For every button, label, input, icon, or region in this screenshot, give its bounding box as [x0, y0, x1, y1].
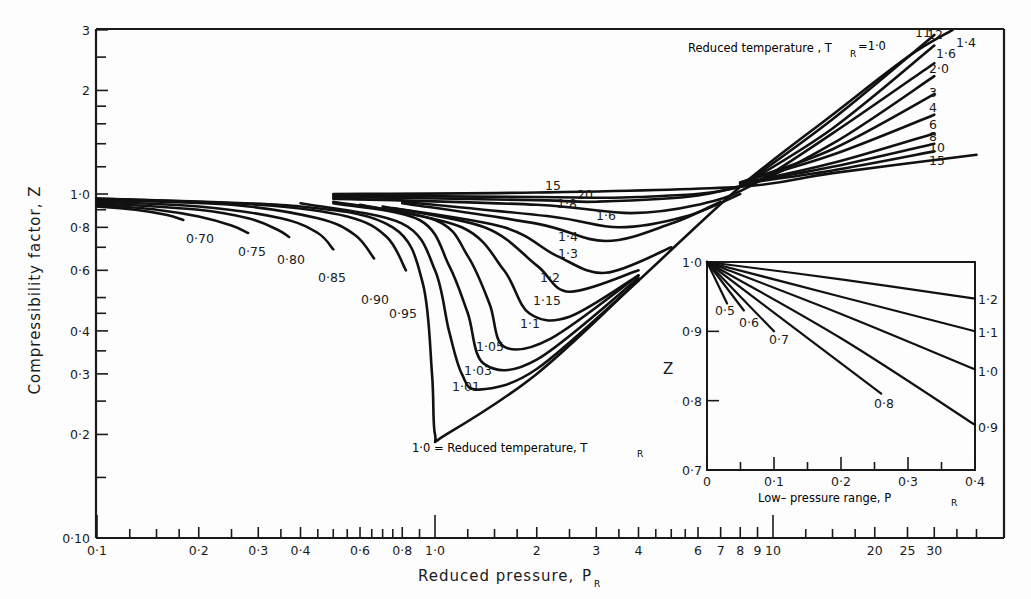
svg-text:0·7: 0·7: [769, 332, 789, 347]
svg-text:0·5: 0·5: [715, 303, 735, 318]
top-annotation-subscript: R: [850, 49, 856, 59]
x-tick-label: 9: [754, 543, 762, 558]
svg-text:0·75: 0·75: [238, 244, 266, 259]
inset-y-tick-label: 1·0: [682, 255, 702, 270]
svg-text:0·70: 0·70: [186, 231, 214, 246]
curve-t-r-2.0: [333, 76, 934, 198]
x-tick-label: 30: [926, 543, 942, 558]
y-tick-label: 0·3: [70, 367, 90, 382]
svg-text:3: 3: [929, 85, 937, 100]
x-tick-label: 6: [694, 543, 702, 558]
y-tick-label: 2: [82, 83, 90, 98]
x-axis-ticks: 0·10·20·30·40·60·81·0234678910202530: [87, 515, 976, 558]
svg-text:1·6: 1·6: [936, 46, 956, 61]
svg-text:0·6: 0·6: [739, 315, 759, 330]
x-tick-label: 0·1: [87, 543, 107, 558]
x-tick-label: 1·0: [425, 543, 445, 558]
y-tick-label: 3: [82, 23, 90, 38]
x-axis-label: Reduced pressure,: [418, 567, 574, 585]
svg-text:1·6: 1·6: [596, 208, 616, 223]
x-tick-label: 7: [717, 543, 725, 558]
svg-text:0·95: 0·95: [389, 306, 417, 321]
y-tick-label: 0·4: [70, 324, 90, 339]
inset-x-tick-label: 0·1: [764, 474, 784, 489]
bottom-annotation-subscript: R: [637, 449, 643, 459]
x-tick-label: 10: [765, 543, 781, 558]
svg-text:2·0: 2·0: [929, 61, 949, 76]
x-tick-label: 25: [900, 543, 916, 558]
y-tick-label: 0·6: [70, 263, 90, 278]
svg-text:0·90: 0·90: [361, 292, 389, 307]
inset-y-tick-label: 0·7: [682, 463, 702, 478]
svg-text:20: 20: [577, 187, 593, 202]
inset-x-tick-label: 0·4: [965, 474, 985, 489]
x-tick-label: 4: [635, 543, 643, 558]
svg-text:0·80: 0·80: [277, 252, 305, 267]
x-tick-label: 2: [533, 543, 541, 558]
svg-text:1·15: 1·15: [533, 293, 561, 308]
inset-x-label: Low– pressure range, P: [758, 491, 891, 505]
svg-text:1·01: 1·01: [452, 379, 480, 394]
svg-text:1·1: 1·1: [978, 325, 998, 340]
x-tick-label: 0·4: [291, 543, 311, 558]
inset-x-tick-label: 0: [703, 474, 711, 489]
x-axis-symbol: P: [582, 567, 592, 585]
svg-text:1·1: 1·1: [520, 316, 540, 331]
svg-text:0·8: 0·8: [874, 396, 894, 411]
svg-text:1·4: 1·4: [956, 35, 976, 50]
top-annotation: Reduced temperature , T: [688, 41, 833, 55]
svg-text:0·9: 0·9: [978, 420, 998, 435]
y-tick-label: 0·8: [70, 220, 90, 235]
x-tick-label: 0·2: [189, 543, 209, 558]
inset-plot: 00·10·20·30·41·00·90·80·7: [682, 255, 985, 489]
y-tick-label: 0·2: [70, 427, 90, 442]
top-annotation-value: =1·0: [858, 39, 886, 53]
svg-text:15: 15: [545, 178, 561, 193]
inset-x-label-subscript: R: [951, 498, 957, 508]
y-axis-ticks: 321·00·80·60·40·30·20·10: [62, 23, 108, 546]
inset-y-tick-label: 0·9: [682, 324, 702, 339]
svg-text:1·4: 1·4: [558, 229, 578, 244]
svg-text:4: 4: [929, 100, 937, 115]
svg-text:12: 12: [927, 27, 943, 42]
x-tick-label: 0·3: [248, 543, 268, 558]
inset-y-tick-label: 0·8: [682, 394, 702, 409]
x-axis-subscript: R: [594, 579, 600, 589]
inset-x-tick-label: 0·2: [831, 474, 851, 489]
bottom-annotation: 1·0 = Reduced temperature, T: [412, 441, 588, 455]
svg-text:1·3: 1·3: [558, 246, 578, 261]
x-tick-label: 0·6: [350, 543, 370, 558]
x-tick-label: 20: [867, 543, 883, 558]
inset-y-label: Z: [663, 360, 674, 378]
y-axis-label: Compressibility factor, Z: [26, 186, 44, 395]
curve-t-r-10: [740, 151, 934, 184]
svg-text:1·05: 1·05: [476, 339, 504, 354]
y-tick-label: 1·0: [70, 187, 90, 202]
compressibility-chart: 321·00·80·60·40·30·20·10 0·10·20·30·40·6…: [0, 0, 1031, 599]
svg-text:1·0: 1·0: [978, 364, 998, 379]
x-tick-label: 8: [736, 543, 744, 558]
x-tick-label: 0·8: [392, 543, 412, 558]
inset-x-tick-label: 0·3: [898, 474, 918, 489]
x-tick-label: 3: [592, 543, 600, 558]
svg-text:1·8: 1·8: [557, 196, 577, 211]
svg-text:1·2: 1·2: [540, 270, 560, 285]
svg-text:1·03: 1·03: [464, 363, 492, 378]
svg-text:1·2: 1·2: [978, 292, 998, 307]
svg-text:0·85: 0·85: [318, 270, 346, 285]
svg-text:15: 15: [929, 153, 945, 168]
y-tick-label: 0·10: [62, 531, 90, 546]
